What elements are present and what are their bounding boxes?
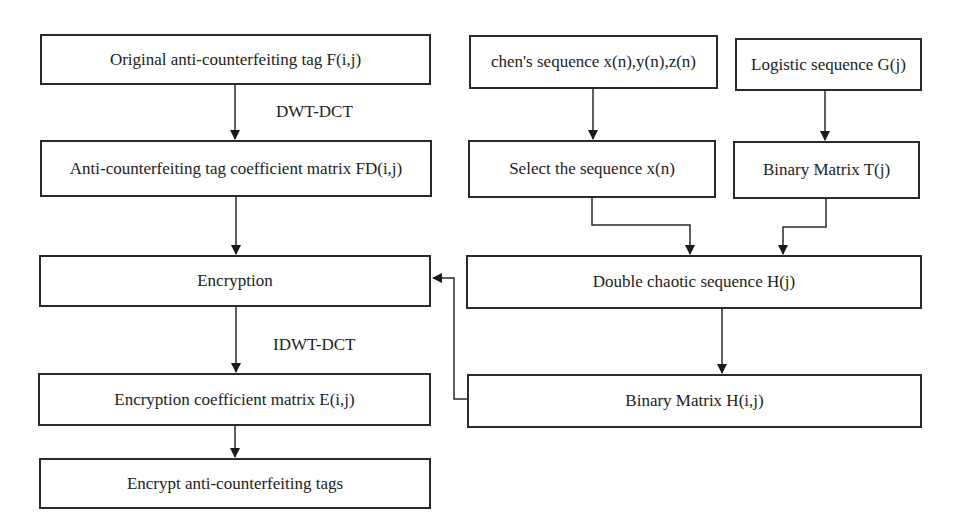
box-label: Encrypt anti-counterfeiting tags	[127, 474, 343, 494]
box-label: Binary Matrix H(i,j)	[625, 391, 763, 411]
edge-label-dwt-dct: DWT-DCT	[276, 102, 353, 122]
edge-label-idwt-dct: IDWT-DCT	[273, 335, 355, 355]
box-label: Anti-counterfeiting tag coefficient matr…	[70, 159, 403, 179]
box-label: chen's sequence x(n),y(n),z(n)	[491, 52, 696, 72]
arrow-binary-t-to-double	[783, 198, 826, 254]
box-original-tag: Original anti-counterfeiting tag F(i,j)	[40, 34, 431, 85]
box-chen-sequence: chen's sequence x(n),y(n),z(n)	[469, 35, 718, 89]
box-coefficient-matrix-fd: Anti-counterfeiting tag coefficient matr…	[40, 140, 432, 197]
box-label: Select the sequence x(n)	[509, 159, 675, 179]
arrow-select-to-double	[592, 197, 690, 254]
box-label: Original anti-counterfeiting tag F(i,j)	[110, 50, 361, 70]
box-select-sequence: Select the sequence x(n)	[468, 140, 716, 198]
box-encrypt-tags: Encrypt anti-counterfeiting tags	[39, 458, 431, 509]
box-logistic-sequence: Logistic sequence G(j)	[735, 38, 922, 91]
box-binary-matrix-h: Binary Matrix H(i,j)	[467, 374, 922, 428]
box-encryption: Encryption	[39, 255, 431, 307]
box-label: Encryption	[197, 271, 273, 291]
arrow-binary-h-to-encryption	[433, 278, 468, 399]
box-label: Binary Matrix T(j)	[763, 160, 890, 180]
box-encryption-coefficient-matrix: Encryption coefficient matrix E(i,j)	[38, 373, 431, 426]
box-label: Double chaotic sequence H(j)	[593, 272, 796, 292]
box-label: Encryption coefficient matrix E(i,j)	[114, 390, 354, 410]
box-binary-matrix-t: Binary Matrix T(j)	[733, 141, 920, 199]
box-label: Logistic sequence G(j)	[751, 55, 906, 75]
box-double-chaotic: Double chaotic sequence H(j)	[466, 255, 922, 309]
